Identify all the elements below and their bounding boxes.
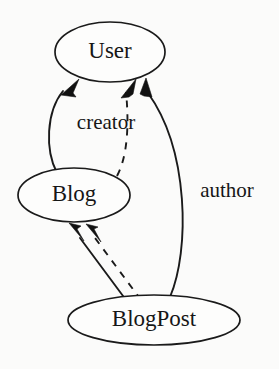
- edge-blogpost-blog: [80, 238, 126, 300]
- arrowhead-solid-at-blog: [69, 223, 84, 241]
- node-blogpost-label: BlogPost: [112, 306, 197, 331]
- edge-blogpost-author-user: [148, 93, 183, 297]
- edge-label-author: author: [200, 178, 254, 202]
- node-blog-label: Blog: [52, 181, 97, 206]
- edge-label-creator: creator: [77, 110, 135, 134]
- arrowhead-author-at-user: [140, 78, 152, 97]
- arrowhead-creator-at-user: [61, 79, 79, 97]
- node-user-label: User: [88, 38, 132, 63]
- graph-svg: User Blog BlogPost creator author: [0, 0, 279, 369]
- arrowhead-dashed-at-blog: [86, 224, 101, 242]
- edge-blog-user-dashed: [117, 92, 127, 176]
- edge-blog-creator-user: [49, 91, 63, 173]
- diagram-canvas: User Blog BlogPost creator author: [0, 0, 279, 369]
